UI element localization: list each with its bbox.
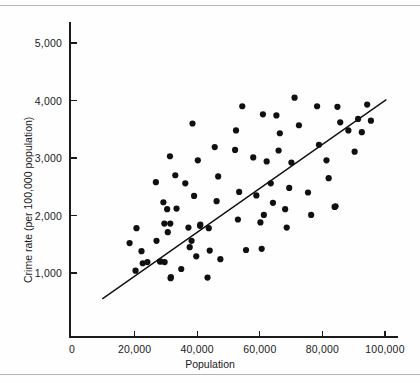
scatter-point: [204, 275, 210, 281]
x-tick-label: 20,000: [118, 343, 151, 355]
scatter-point: [232, 147, 238, 153]
scatter-point: [206, 225, 212, 231]
scatter-point: [326, 175, 332, 181]
x-axis-title: Population: [0, 358, 420, 370]
x-tick-label: 60,000: [243, 343, 276, 355]
scatter-point: [187, 244, 193, 250]
scatter-point: [282, 206, 288, 212]
scatter-point: [286, 185, 292, 191]
scatter-point: [259, 246, 265, 252]
scatter-point: [126, 240, 132, 246]
scatter-point: [197, 222, 203, 228]
y-tick-label: 4,000: [14, 95, 62, 107]
scatter-point: [133, 225, 139, 231]
scatter-point: [288, 160, 294, 166]
scatter-point: [323, 157, 329, 163]
scatter-point: [270, 200, 276, 206]
scatter-point: [260, 111, 266, 117]
scatter-point: [345, 127, 351, 133]
scatter-point: [257, 219, 263, 225]
scatter-point: [212, 144, 218, 150]
y-axis-title: Crime rate (per 100,000 population): [22, 117, 34, 283]
scatter-point: [264, 158, 270, 164]
scatter-point: [308, 212, 314, 218]
scatterplot-figure: 1,0002,0003,0004,0005,000 020,00040,0006…: [0, 0, 420, 383]
regression-trendline: [103, 100, 386, 299]
scatter-point: [316, 142, 322, 148]
scatter-point: [253, 192, 259, 198]
scatter-point: [364, 101, 370, 107]
scatter-point: [305, 189, 311, 195]
scatter-point: [173, 206, 179, 212]
scatter-point: [352, 149, 358, 155]
scatter-point: [268, 180, 274, 186]
scatter-point: [275, 147, 281, 153]
scatter-point: [359, 129, 365, 135]
scatter-point: [314, 103, 320, 109]
scatter-point: [207, 247, 213, 253]
scatter-point: [182, 180, 188, 186]
axes-group: [70, 22, 398, 337]
scatter-point: [144, 259, 150, 265]
scatter-point: [161, 220, 167, 226]
scatter-point: [168, 274, 174, 280]
scatter-point: [273, 112, 279, 118]
scatter-point: [214, 198, 220, 204]
scatter-point: [239, 103, 245, 109]
scatter-point: [332, 203, 338, 209]
scatter-point: [178, 266, 184, 272]
scatter-point: [296, 122, 302, 128]
x-tick-label: 80,000: [306, 343, 339, 355]
scatter-point: [172, 172, 178, 178]
scatter-point: [185, 224, 191, 230]
scatter-point: [261, 212, 267, 218]
scatter-point: [284, 224, 290, 230]
scatter-point: [236, 189, 242, 195]
scatter-point: [138, 248, 144, 254]
scatter-point: [233, 127, 239, 133]
scatter-point: [217, 256, 223, 262]
x-tick-label: 100,000: [365, 343, 404, 355]
scatter-point: [165, 229, 171, 235]
ticks-group: [70, 43, 385, 337]
scatter-point: [167, 220, 173, 226]
scatter-point: [334, 104, 340, 110]
scatter-point: [162, 259, 168, 265]
x-tick-label: 0: [69, 343, 75, 355]
scatter-point: [215, 173, 221, 179]
scatter-point: [189, 120, 195, 126]
scatter-point: [153, 179, 159, 185]
x-tick-label: 40,000: [181, 343, 214, 355]
scatter-point: [250, 154, 256, 160]
scatter-point: [153, 238, 159, 244]
scatter-point: [195, 157, 201, 163]
scatter-point: [191, 193, 197, 199]
scatter-point: [188, 238, 194, 244]
plot-canvas: [0, 0, 420, 383]
scatter-point: [160, 199, 166, 205]
scatter-point: [337, 119, 343, 125]
scatter-points-group: [126, 95, 374, 282]
scatter-point: [243, 247, 249, 253]
scatter-point: [132, 268, 138, 274]
scatter-point: [355, 116, 361, 122]
scatter-point: [368, 118, 374, 124]
scatter-point: [235, 216, 241, 222]
scatter-point: [277, 130, 283, 136]
scatter-point: [167, 153, 173, 159]
scatter-point: [291, 95, 297, 101]
y-tick-label: 5,000: [14, 37, 62, 49]
scatter-point: [193, 253, 199, 259]
scatter-point: [164, 206, 170, 212]
